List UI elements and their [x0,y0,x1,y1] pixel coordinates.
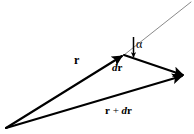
label-vector-r: r [74,54,79,66]
label-vector-dr: dr [112,62,122,73]
label-vector-r-plus-dr: r + dr [105,105,132,116]
label-sum-r2: r [127,104,132,116]
vector-r-plus-dr-arrow [6,76,182,128]
vector-diagram-canvas [0,0,194,134]
vector-r-arrow [6,56,122,128]
label-sum-plus: + [110,104,122,116]
vector-diagram-figure: r dr α r + dr [0,0,194,134]
vector-dr-arrow [124,55,183,75]
label-angle-alpha: α [136,38,142,50]
label-dr-r: r [118,61,123,73]
